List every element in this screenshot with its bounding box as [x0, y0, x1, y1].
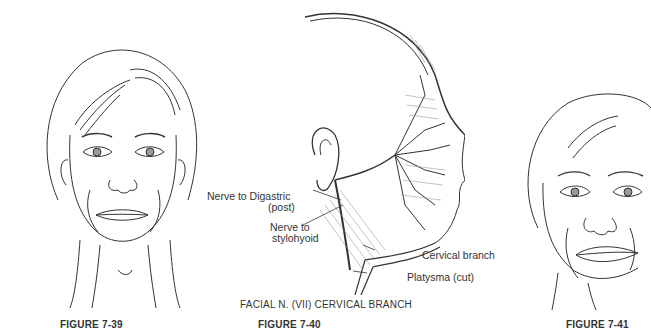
figure-caption-7-40: FIGURE 7-40	[258, 319, 321, 330]
figure-title-facial-nerve: FACIAL N. (VII) CERVICAL BRANCH	[240, 299, 412, 310]
label-platysma-cut: Platysma (cut)	[407, 272, 474, 283]
label-cervical-branch: Cervical branch	[422, 250, 495, 261]
figure-7-41-illustration	[518, 88, 651, 310]
figure-7-39-illustration	[20, 40, 200, 310]
label-digastric-post: (post)	[268, 202, 295, 213]
label-nerve-to-stylohyoid-2: stylohyoid	[272, 233, 319, 244]
figure-caption-7-41: FIGURE 7-41	[566, 319, 629, 330]
figure-caption-7-39: FIGURE 7-39	[60, 319, 123, 330]
